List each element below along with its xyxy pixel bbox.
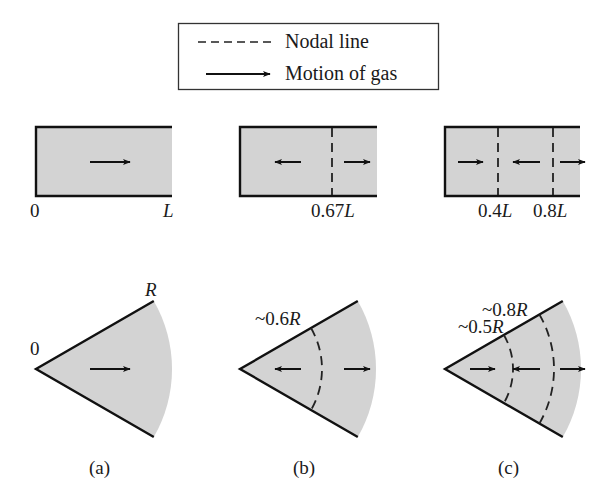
nodal-position-label: 0.8L [533, 200, 567, 221]
caption-b: (b) [293, 457, 315, 479]
sector-c: ~0.5R ~0.8R [445, 299, 585, 437]
nodal-position-var: L [343, 200, 355, 221]
nodal-radius-label: ~0.8R [482, 299, 528, 320]
caption-c: (c) [498, 457, 519, 479]
legend-label-nodal-line: Nodal line [285, 30, 369, 52]
tube-b: 0.67L [240, 127, 377, 221]
nodal-radius-value: ~0.6 [255, 308, 289, 329]
nodal-position-label: 0.4L [478, 200, 512, 221]
acoustic-modes-diagram: Nodal line Motion of gas 0 L 0.67L 0.4L … [0, 0, 610, 495]
radius-label: R [144, 279, 157, 300]
nodal-position-value: 0.67 [311, 200, 344, 221]
tube-start-label: 0 [30, 200, 40, 221]
nodal-position-label: 0.67L [311, 200, 355, 221]
caption-a: (a) [89, 457, 110, 479]
nodal-position-value: 0.4 [478, 200, 502, 221]
legend-label-motion-of-gas: Motion of gas [285, 62, 397, 85]
nodal-position-var: L [501, 200, 513, 221]
sector-a: 0 R [30, 279, 172, 437]
tube-end-label: L [162, 200, 174, 221]
nodal-position-value: 0.8 [533, 200, 557, 221]
tube-a: 0 L [30, 127, 174, 221]
sector-b: ~0.6R [240, 301, 376, 437]
tube-c: 0.4L 0.8L [445, 127, 585, 221]
apex-label: 0 [30, 338, 40, 359]
nodal-radius-value: ~0.8 [482, 299, 516, 320]
nodal-radius-var: R [515, 299, 528, 320]
nodal-position-var: L [556, 200, 568, 221]
nodal-radius-var: R [288, 308, 301, 329]
legend: Nodal line Motion of gas [179, 24, 439, 90]
nodal-radius-label: ~0.6R [255, 308, 301, 329]
